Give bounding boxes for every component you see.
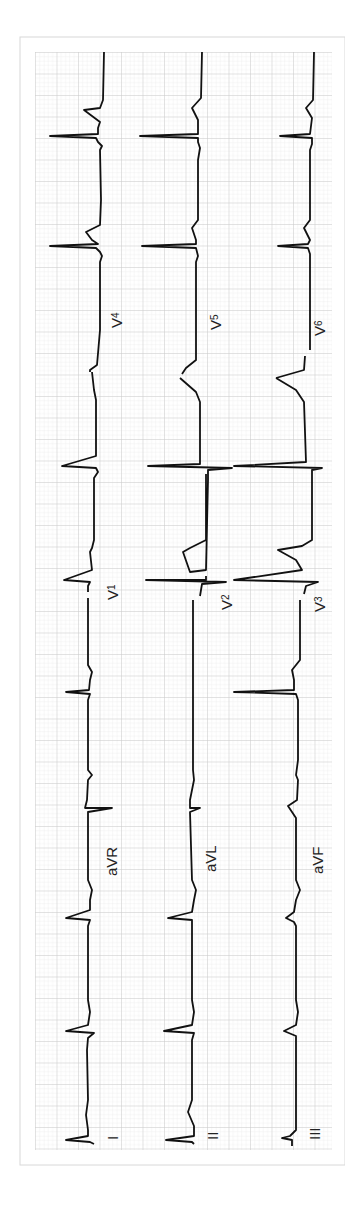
ecg-strip: I II III aVR aVL aVF V1 V2 V3 V4 V5 V6	[0, 0, 345, 1218]
lead-label-aVR: aVR	[103, 847, 120, 876]
lead-label-aVL: aVL	[202, 845, 219, 872]
grid	[35, 52, 332, 1150]
lead-label-III: III	[306, 1127, 323, 1140]
lead-label-I: I	[104, 1136, 121, 1140]
lead-label-aVF: aVF	[309, 846, 326, 874]
lead-label-II: II	[204, 1132, 221, 1140]
